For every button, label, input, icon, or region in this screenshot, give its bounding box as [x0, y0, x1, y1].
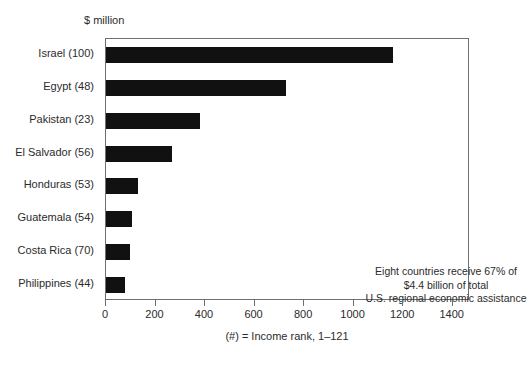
y-axis-label: Pakistan (23): [29, 113, 94, 126]
x-tick-label: 200: [145, 308, 163, 320]
x-tick-label: 800: [294, 308, 312, 320]
bars-layer: [106, 39, 468, 299]
chart-footnote: (#) = Income rank, 1–121: [105, 330, 469, 342]
bar: [106, 113, 200, 129]
x-tick-mark: [303, 300, 304, 306]
bar-row: [106, 113, 470, 129]
bar-row: [106, 80, 470, 96]
bar: [106, 178, 138, 194]
y-axis-label: Costa Rica (70): [18, 244, 94, 257]
y-axis-label: Guatemala (54): [18, 211, 94, 224]
bar-row: [106, 178, 470, 194]
x-tick-mark: [155, 300, 156, 306]
bar: [106, 80, 286, 96]
y-axis-label: Philippines (44): [18, 277, 94, 290]
x-tick-mark: [353, 300, 354, 306]
x-tick-mark: [254, 300, 255, 306]
x-axis-ticks: 0200400600800100012001400: [105, 300, 469, 330]
x-tick-label: 400: [195, 308, 213, 320]
bar-row: [106, 146, 470, 162]
x-tick-mark: [402, 300, 403, 306]
axis-unit-label: $ million: [84, 14, 124, 26]
bar-row: [106, 47, 470, 63]
x-tick-mark: [204, 300, 205, 306]
bar-row: [106, 211, 470, 227]
x-tick-mark: [452, 300, 453, 306]
y-axis-label: Egypt (48): [43, 80, 94, 93]
x-tick-label: 1200: [390, 308, 414, 320]
x-tick-label: 600: [244, 308, 262, 320]
bar: [106, 277, 125, 293]
x-tick-mark: [105, 300, 106, 306]
bar: [106, 211, 132, 227]
y-axis-category-labels: Israel (100)Egypt (48)Pakistan (23)El Sa…: [0, 38, 100, 300]
x-tick-label: 1000: [340, 308, 364, 320]
bar-row: [106, 244, 470, 260]
bar: [106, 146, 172, 162]
bar: [106, 244, 130, 260]
y-axis-label: Honduras (53): [24, 178, 94, 191]
bar: [106, 47, 393, 63]
x-tick-label: 0: [102, 308, 108, 320]
y-axis-label: El Salvador (56): [15, 146, 94, 159]
annotation-line-1: Eight countries receive 67% of: [338, 265, 531, 279]
plot-area: Eight countries receive 67% of $4.4 bill…: [105, 38, 469, 300]
x-tick-label: 1400: [439, 308, 463, 320]
y-axis-label: Israel (100): [38, 47, 94, 60]
annotation-line-2: $4.4 billion of total: [338, 279, 531, 293]
